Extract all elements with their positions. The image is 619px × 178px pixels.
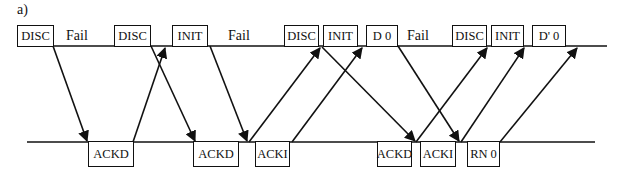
message-arrows [53, 46, 577, 142]
message-label: DISC [455, 29, 483, 44]
top-message-box: D' 0 [532, 25, 566, 47]
message-arrow [151, 46, 195, 141]
message-arrow [210, 46, 247, 141]
message-label: D' 0 [539, 29, 560, 44]
top-message-box: DISC [452, 25, 487, 47]
top-message-box: INIT [491, 25, 524, 47]
message-arrow [322, 47, 415, 141]
message-label: DISC [118, 29, 146, 44]
bottom-message-box: ACKI [420, 141, 456, 167]
message-arrow [500, 48, 577, 142]
message-label: INIT [328, 29, 353, 44]
message-label: RN 0 [470, 147, 497, 162]
message-label: DISC [21, 29, 49, 44]
top-message-box: D 0 [366, 25, 398, 47]
bottom-message-box: ACKD [377, 141, 412, 167]
top-message-box: DISC [17, 25, 54, 47]
message-label: D 0 [373, 29, 391, 44]
top-message-box: DISC [284, 25, 319, 47]
bottom-message-box: ACKD [193, 141, 239, 167]
message-label: ACKD [198, 147, 233, 162]
message-label: ACKI [423, 147, 454, 162]
message-arrow [461, 48, 524, 142]
message-label: INIT [495, 29, 520, 44]
message-label: DISC [287, 29, 315, 44]
top-message-box: INIT [323, 25, 358, 47]
bottom-message-box: ACKI [255, 141, 290, 167]
bottom-message-box: ACKD [88, 141, 134, 167]
message-label: ACKD [377, 147, 412, 162]
top-message-box: INIT [172, 25, 208, 47]
message-arrow [292, 48, 362, 142]
top-message-box: DISC [114, 25, 151, 47]
fail-label: Fail [66, 29, 88, 43]
panel-label: a) [17, 3, 28, 17]
message-label: ACKD [93, 147, 128, 162]
message-label: ACKI [257, 147, 288, 162]
fail-label: Fail [228, 29, 250, 43]
message-arrow [249, 48, 320, 142]
fail-label: Fail [407, 29, 429, 43]
bottom-message-box: RN 0 [467, 141, 500, 167]
message-arrow [53, 46, 87, 141]
message-arrow [133, 48, 165, 142]
message-label: INIT [178, 29, 203, 44]
